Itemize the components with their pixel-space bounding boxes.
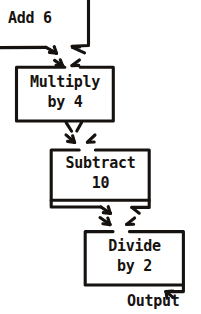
flowchart-strokes	[0, 0, 201, 314]
multiply-box-outline	[17, 67, 114, 121]
add-box-right-wall	[72, 0, 89, 46]
edge-multiply-to-subtract-stub-right	[77, 123, 82, 131]
edge-multiply-to-subtract-head-b	[68, 141, 75, 142]
subtract-box-outline	[51, 150, 149, 200]
edge-add-to-multiply-arrowhead-b	[49, 52, 56, 53]
node-label-add: Add 6	[8, 10, 52, 27]
flowchart-canvas: Add 6 Multiply by 4 Subtract 10 Divide b…	[0, 0, 201, 314]
divide-box-outline	[85, 232, 183, 285]
edge-into-divide-head-b	[103, 224, 110, 225]
terminal-label-output: Output	[127, 293, 179, 310]
edge-subtract-to-divide-head-b	[103, 213, 110, 214]
edge-multiply-to-subtract-stub	[66, 123, 71, 132]
